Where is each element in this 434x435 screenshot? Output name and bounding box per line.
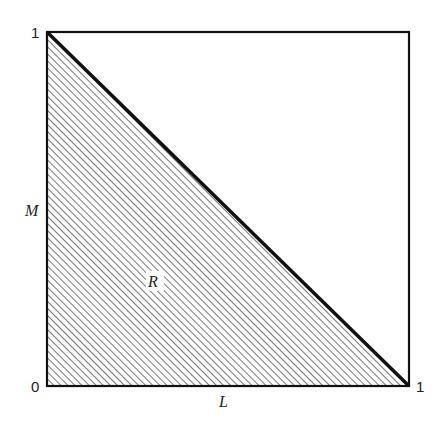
origin-tick-0: 0 — [31, 378, 39, 395]
y-axis-label: M — [24, 202, 40, 219]
x-tick-1: 1 — [416, 378, 424, 395]
y-tick-1: 1 — [31, 24, 39, 41]
x-axis-label: L — [218, 393, 228, 410]
diagram: 1 0 1 M L R — [0, 0, 434, 435]
region-r-label: R — [147, 273, 158, 290]
